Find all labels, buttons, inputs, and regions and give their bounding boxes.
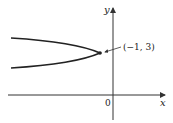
origin-label: 0 (105, 98, 111, 108)
coordinate-plane: (−1, 3) y x 0 (0, 0, 173, 123)
parabola-curve (11, 38, 100, 68)
vertex-point (98, 51, 102, 55)
vertex-label: (−1, 3) (123, 42, 155, 52)
y-axis-label: y (103, 4, 110, 15)
x-axis-label: x (160, 97, 166, 108)
